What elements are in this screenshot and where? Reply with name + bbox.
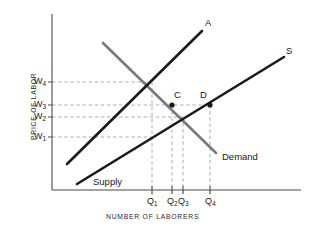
x-tick-label-q3-sub: 3 [185,200,189,207]
y-tick-label-w3-sub: 3 [43,103,47,110]
labor-supply-demand-chart: PRICE OF LABOR NUMBER OF LABORERS W4 W3 … [0,0,323,237]
y-tick-label-w2-sub: 2 [43,115,47,122]
guide-lines [52,82,210,196]
y-tick-label-w4-sub: 4 [43,80,47,87]
curve-label-demand: Demand [222,152,258,162]
axis-lines [52,14,301,190]
curve-label-s: S [286,46,292,56]
x-tick-label-q1: Q1 [147,197,158,206]
point-label-d: D [200,90,207,100]
x-tick-label-q1-sub: 1 [154,200,158,207]
y-tick-label-w1-base: W [34,131,43,141]
y-tick-label-w1: W1 [34,132,46,141]
point-c-marker [169,102,174,107]
x-tick-label-q4-sub: 4 [212,200,216,207]
x-tick-label-q3: Q3 [178,197,189,206]
point-d-marker [207,102,212,107]
curve-s-supply [77,57,284,184]
chart-canvas [0,0,323,237]
y-tick-label-w1-sub: 1 [43,135,47,142]
y-tick-label-w3-base: W [34,99,43,109]
curve-label-supply: Supply [93,177,122,187]
curve-a [67,31,202,164]
y-tick-label-w2-base: W [34,111,43,121]
x-tick-label-q4: Q4 [205,197,216,206]
x-tick-label-q2: Q2 [167,197,178,206]
y-tick-label-w4: W4 [34,77,46,86]
y-tick-label-w4-base: W [34,76,43,86]
axis-tick-marks [48,82,210,194]
x-axis-title: NUMBER OF LABORERS [106,214,199,221]
y-tick-label-w3: W3 [34,100,46,109]
y-tick-label-w2: W2 [34,112,46,121]
curve-label-a: A [205,18,211,28]
point-label-c: C [174,90,181,100]
